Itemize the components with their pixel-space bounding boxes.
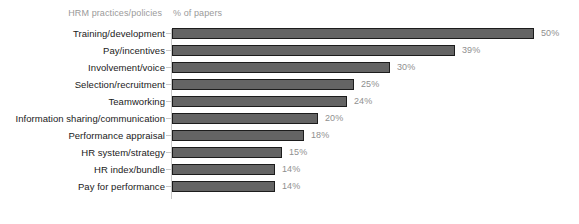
category-label: Selection/recruitment <box>75 79 165 90</box>
axis-tick <box>166 135 171 136</box>
bar-value-label: 25% <box>361 79 379 90</box>
bar <box>172 96 347 107</box>
axis-tick <box>166 101 171 102</box>
axis-tick <box>166 33 171 34</box>
axis-tick <box>166 50 171 51</box>
axis-tick <box>166 67 171 68</box>
category-label: HR system/strategy <box>81 147 165 158</box>
category-label: Performance appraisal <box>68 130 165 141</box>
bar-row: HR index/bundle14% <box>0 163 579 180</box>
category-label: Training/development <box>73 28 165 39</box>
bar <box>172 147 282 158</box>
bar-value-label: 18% <box>311 130 329 141</box>
bar <box>172 45 455 56</box>
bar-row: Performance appraisal18% <box>0 129 579 146</box>
bar <box>172 79 354 90</box>
axis-tick <box>166 169 171 170</box>
horizontal-bar-chart: HRM practices/policies % of papers Train… <box>0 0 579 224</box>
bar-value-label: 30% <box>397 62 415 73</box>
axis-tick <box>166 186 171 187</box>
category-label: Information sharing/communication <box>16 113 166 124</box>
category-label: Pay/incentives <box>103 45 165 56</box>
bar-row: Pay/incentives39% <box>0 44 579 61</box>
bar-value-label: 24% <box>354 96 372 107</box>
bar-value-label: 39% <box>462 45 480 56</box>
category-label: HR index/bundle <box>94 164 165 175</box>
axis-tick <box>166 152 171 153</box>
bar-row: Selection/recruitment25% <box>0 78 579 95</box>
category-label: Involvement/voice <box>88 62 165 73</box>
axis-tick <box>166 118 171 119</box>
bar-row: Pay for performance14% <box>0 180 579 197</box>
bar <box>172 113 318 124</box>
bar <box>172 181 275 192</box>
plot-area: Training/development50%Pay/incentives39%… <box>0 27 579 207</box>
bar <box>172 130 304 141</box>
bar-row: Training/development50% <box>0 27 579 44</box>
value-axis-header: % of papers <box>173 8 222 18</box>
bar <box>172 62 390 73</box>
bar-value-label: 14% <box>282 181 300 192</box>
bar-row: Teamworking24% <box>0 95 579 112</box>
bar-value-label: 20% <box>325 113 343 124</box>
bar <box>172 28 534 39</box>
bar-row: Involvement/voice30% <box>0 61 579 78</box>
bar-row: HR system/strategy15% <box>0 146 579 163</box>
chart-header-row: HRM practices/policies % of papers <box>0 8 579 24</box>
category-label: Pay for performance <box>78 181 165 192</box>
bar-value-label: 15% <box>289 147 307 158</box>
category-axis-header: HRM practices/policies <box>0 8 162 18</box>
bar-row: Information sharing/communication20% <box>0 112 579 129</box>
bar-value-label: 14% <box>282 164 300 175</box>
bar-value-label: 50% <box>541 28 559 39</box>
axis-tick <box>166 84 171 85</box>
bar-rows: Training/development50%Pay/incentives39%… <box>0 27 579 197</box>
category-label: Teamworking <box>108 96 165 107</box>
bar <box>172 164 275 175</box>
